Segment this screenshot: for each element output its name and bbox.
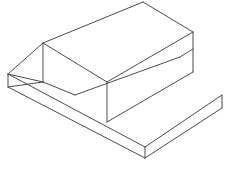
isometric-drawing-svg: Isometric pictorial of stepped block wit…: [0, 0, 231, 173]
isometric-drawing-canvas: Isometric pictorial of stepped block wit…: [0, 0, 231, 173]
